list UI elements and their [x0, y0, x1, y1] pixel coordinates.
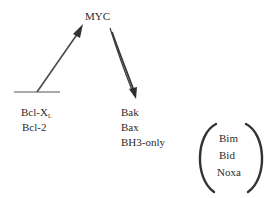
bax-label: Bax — [121, 121, 139, 133]
bid-label: Bid — [219, 149, 235, 161]
bim-label: Bim — [219, 132, 238, 144]
arrow-down-from-myc-icon — [110, 28, 137, 99]
arrow-up-to-myc-icon — [37, 24, 83, 92]
noxa-label: Noxa — [217, 166, 241, 178]
bcl-xl-main: Bcl-X — [21, 106, 48, 118]
bak-label: Bak — [121, 106, 139, 118]
bh3-only-label: BH3-only — [121, 136, 165, 148]
bcl-xl-subscript: L — [48, 113, 52, 119]
myc-node-label: MYC — [85, 10, 110, 22]
bcl-xl-label: Bcl-XL — [21, 106, 52, 122]
bcl-2-label: Bcl-2 — [22, 121, 46, 133]
diagram-canvas: MYC Bcl-XL Bcl-2 Bak Bax BH3-only Bim Bi… — [0, 0, 277, 198]
